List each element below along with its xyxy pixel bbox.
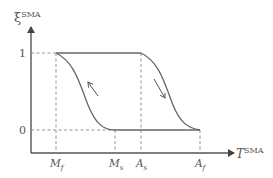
x-axis-label: TSMA (236, 146, 264, 161)
cooling-curve (56, 53, 115, 130)
dashed-guides (31, 53, 200, 153)
y-tick-1: 1 (19, 47, 26, 60)
y-tick-0: 0 (19, 124, 26, 137)
heating-arrow-icon (154, 79, 165, 98)
hysteresis-diagram: ξSMA 1 0 Mf Ms As Af TSMA (0, 0, 273, 178)
heating-curve (141, 53, 200, 130)
y-axis-label: ξSMA (14, 10, 41, 25)
hysteresis-loop (56, 53, 200, 130)
x-tick-ms: Ms (108, 157, 124, 172)
x-tick-as: As (135, 157, 148, 172)
cooling-arrow-icon (88, 82, 98, 96)
x-tick-mf: Mf (49, 157, 65, 172)
x-tick-af: Af (194, 157, 207, 172)
